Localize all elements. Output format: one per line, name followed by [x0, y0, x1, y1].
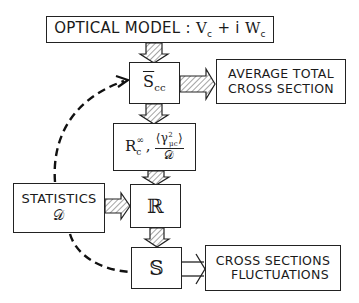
arrow-scc-to-rparams: [140, 104, 168, 124]
arrow-statistics-to-r: [105, 193, 130, 219]
rparams-label: R∞c , ⟨γ2μc⟩ 𝒟: [125, 131, 184, 162]
fluctuations-box: CROSS SECTIONS FLUCTUATIONS: [205, 245, 341, 291]
optical-model-text: OPTICAL MODEL :: [54, 19, 196, 37]
gamma-sub: μc: [169, 140, 178, 148]
statistics-line2: 𝒟: [53, 207, 64, 223]
arrow-r-to-s: [145, 228, 169, 247]
gamma-sup: 2: [168, 131, 173, 139]
comma: ,: [146, 138, 151, 155]
r-matrix-box: ℝ: [130, 184, 181, 228]
fluct-line2: FLUCTUATIONS: [217, 268, 329, 282]
s-matrix-label: 𝕊: [149, 257, 164, 280]
fraction-denominator: 𝒟: [164, 149, 174, 163]
fraction-numerator: ⟨γ2μc⟩: [155, 131, 184, 148]
r-matrix-label: ℝ: [147, 195, 164, 218]
average-line1: AVERAGE TOTAL: [228, 67, 334, 81]
arrow-rparams-to-r: [143, 171, 169, 185]
rparams-box: R∞c , ⟨γ2μc⟩ 𝒟: [113, 123, 196, 171]
plus-i: + i: [212, 19, 245, 37]
potential-w: W: [245, 19, 261, 37]
arrow-s-to-fluct: [182, 254, 205, 284]
r-sup: ∞: [137, 135, 145, 145]
potential-w-sub: c: [261, 29, 266, 39]
statistics-line1: STATISTICS: [21, 192, 96, 207]
scc-box: Scc: [129, 62, 180, 104]
arrow-scc-to-average: [180, 69, 215, 99]
average-line2: CROSS SECTION: [228, 82, 334, 96]
gamma-fraction: ⟨γ2μc⟩ 𝒟: [155, 131, 184, 162]
statistics-box: STATISTICS 𝒟: [13, 183, 105, 233]
scc-main: S: [143, 72, 154, 91]
arrow-optical-to-scc: [140, 43, 168, 63]
r-infinity: R: [125, 137, 137, 155]
scc-sub: cc: [154, 82, 166, 93]
potential-v: V: [196, 19, 207, 37]
angle-close: ⟩: [178, 131, 183, 145]
optical-model-box: OPTICAL MODEL : Vc + i Wc: [46, 16, 274, 43]
s-matrix-box: 𝕊: [131, 247, 182, 289]
scc-label: Scc: [143, 73, 166, 94]
optical-model-label: OPTICAL MODEL : Vc + i Wc: [54, 20, 266, 39]
r-sub: c: [136, 147, 141, 157]
dashed-feedback-lower: [70, 234, 130, 272]
fluct-line1: CROSS SECTIONS: [216, 254, 330, 268]
average-box: AVERAGE TOTAL CROSS SECTION: [216, 59, 346, 104]
